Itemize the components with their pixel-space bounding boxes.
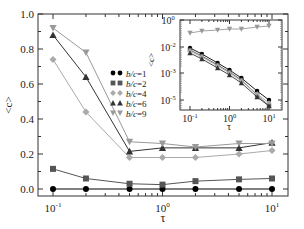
data-point-marker [82, 50, 89, 57]
inset-y-tick-label: 10-3 [160, 67, 175, 80]
legend-marker [118, 81, 123, 86]
x-axis-label: τ [161, 211, 166, 225]
inset-y-axis-label: <c> [146, 53, 156, 67]
legend-label: b/c=1 [126, 69, 147, 79]
legend-label: b/c=2 [126, 79, 147, 89]
y-tick-label: 0.8 [20, 43, 34, 55]
data-point-marker [160, 182, 166, 188]
y-tick-label: 0.2 [20, 148, 34, 160]
inset-x-tick-label: 101 [262, 112, 275, 125]
data-point-marker [83, 186, 89, 192]
data-point-marker [236, 186, 242, 192]
legend-marker [111, 71, 116, 76]
y-tick-label: 0.4 [20, 113, 34, 125]
x-tick-label: 10-1 [45, 201, 62, 214]
inset-y-tick-label: 10-2 [160, 41, 175, 54]
y-axis-label: <c> [2, 96, 14, 113]
data-point-marker [49, 31, 56, 38]
legend-label: b/c=6 [126, 99, 147, 109]
y-tick-label: 0.6 [20, 78, 34, 90]
legend-marker [117, 111, 123, 116]
data-point-marker [127, 181, 133, 187]
series-b-c-2 [50, 166, 275, 188]
inset-x-axis-label: τ [227, 121, 231, 132]
inset-y-tick-label: 10-5 [160, 94, 175, 107]
data-point-marker [235, 150, 242, 157]
data-point-marker [192, 154, 199, 161]
data-point-marker [192, 186, 198, 192]
legend-label: b/c=4 [126, 89, 147, 99]
inset-x-tick-label: 10-1 [182, 112, 197, 125]
legend-marker [110, 90, 116, 96]
inset-plot: 10010-210-310-510-1100101τ<c> [146, 14, 282, 133]
data-point-marker [50, 166, 56, 172]
y-tick-label: 1.0 [20, 8, 34, 20]
legend-marker [117, 90, 123, 96]
data-point-marker [269, 186, 275, 192]
data-point-marker [236, 176, 242, 182]
inset-frame [180, 20, 282, 110]
data-point-marker [127, 186, 133, 192]
data-point-marker [192, 178, 198, 184]
x-tick-label: 101 [265, 201, 280, 214]
legend-marker [111, 81, 116, 86]
y-tick-label: 0.0 [20, 183, 34, 195]
data-point-marker [83, 176, 89, 182]
data-point-marker [269, 176, 275, 182]
legend-label: b/c=9 [126, 109, 147, 119]
legend-marker [110, 111, 116, 116]
data-point-marker [49, 25, 56, 32]
inset-y-tick-label: 100 [161, 14, 174, 27]
chart: 0.00.20.40.60.81.010-1100101τ<c>b/c=1b/c… [0, 0, 304, 229]
legend-marker [117, 100, 123, 105]
data-point-marker [49, 56, 56, 63]
data-point-marker [50, 186, 56, 192]
data-point-marker [159, 154, 166, 161]
legend: b/c=1b/c=2b/c=4b/c=6b/c=9 [110, 69, 147, 119]
data-point-marker [268, 147, 275, 154]
legend-marker [118, 71, 123, 76]
